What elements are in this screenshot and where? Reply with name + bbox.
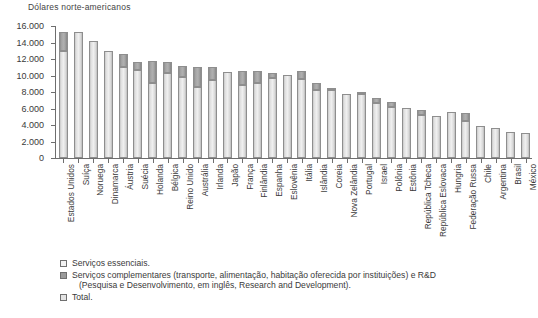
x-axis-label-32: México (529, 164, 538, 190)
x-axis-tick (302, 158, 303, 163)
bar-segment-complementares (208, 67, 217, 80)
bar-21 (357, 92, 366, 158)
x-axis-tick (138, 158, 139, 163)
x-axis-tick (287, 158, 288, 163)
bar-12 (223, 72, 232, 158)
x-axis-label-2: Suíça (82, 164, 91, 185)
bar-14 (253, 71, 262, 158)
x-axis-label-25: República Tcheca (424, 164, 433, 229)
y-axis-tick-label: 12.000 (16, 54, 44, 64)
bar-segment-essenciais (148, 83, 157, 158)
bar-segment-essenciais (476, 126, 485, 158)
bar-segment-complementares (312, 83, 321, 90)
legend-label: Serviços essenciais. (72, 258, 150, 269)
legend-label-continuation: (Pesquisa e Desenvolvimento, em inglês, … (72, 280, 436, 291)
x-axis-label-22: Israel (380, 164, 389, 184)
x-axis-label-27: Hungria (454, 164, 463, 193)
y-axis-tick (51, 59, 55, 60)
x-axis-label-13: França (246, 164, 255, 190)
x-axis-tick (213, 158, 214, 163)
x-axis-label-16: Eslovênia (290, 164, 299, 200)
y-axis-tick (51, 125, 55, 126)
bar-segment-essenciais (193, 87, 202, 158)
bar-7 (148, 61, 157, 158)
bar-25 (417, 110, 426, 158)
bar-segment-complementares (268, 73, 277, 78)
x-axis-tick (198, 158, 199, 163)
x-axis-label-20: Nova Zelândia (350, 164, 359, 218)
bar-15 (268, 73, 277, 158)
bar-segment-complementares (461, 113, 470, 121)
x-axis-tick (436, 158, 437, 163)
x-axis-label-30: Argentina (499, 164, 508, 200)
bar-17 (297, 71, 306, 158)
x-axis-tick (421, 158, 422, 163)
bar-segment-essenciais (283, 75, 292, 158)
bar-29 (476, 126, 485, 158)
x-axis-line (55, 158, 532, 159)
x-axis-tick (63, 158, 64, 163)
x-axis-label-1: Estados Unidos (67, 164, 76, 222)
x-axis-labels: Estados UnidosSuíçaNoruegaDinamarcaÁustr… (55, 164, 532, 254)
bar-segment-essenciais (372, 103, 381, 158)
bar-segment-essenciais (506, 132, 515, 158)
y-axis-line (55, 26, 56, 158)
y-axis-tick-label: 8.000 (21, 87, 44, 97)
x-axis-label-7: Holanda (156, 164, 165, 195)
bar-segment-complementares (148, 61, 157, 83)
x-axis-label-4: Dinamarca (111, 164, 120, 204)
bar-segment-essenciais (119, 67, 128, 158)
x-axis-label-3: Noruega (96, 164, 105, 196)
bar-chart: Dólares norte-americanos 02.0004.0006.00… (0, 0, 538, 318)
x-axis-tick (93, 158, 94, 163)
bar-18 (312, 83, 321, 158)
bar-32 (521, 133, 530, 158)
bar-segment-essenciais (447, 112, 456, 158)
y-axis-tick (51, 142, 55, 143)
x-axis-tick (108, 158, 109, 163)
x-axis-tick (78, 158, 79, 163)
x-axis-tick (257, 158, 258, 163)
x-axis-tick (153, 158, 154, 163)
x-axis-tick (362, 158, 363, 163)
x-axis-label-8: Bélgica (171, 164, 180, 191)
x-axis-tick (376, 158, 377, 163)
x-axis-tick (526, 158, 527, 163)
legend-label: Serviços complementares (transporte, ali… (72, 270, 436, 291)
x-axis-tick (332, 158, 333, 163)
bar-segment-complementares (59, 32, 68, 51)
legend-label: Total. (72, 292, 93, 303)
x-axis-tick (511, 158, 512, 163)
bar-10 (193, 67, 202, 158)
y-axis-title: Dólares norte-americanos (28, 2, 131, 12)
legend-swatch-essenciais-icon (60, 260, 67, 267)
bar-segment-essenciais (178, 77, 187, 158)
bar-segment-complementares (417, 110, 426, 115)
bar-segment-essenciais (297, 79, 306, 158)
bar-30 (491, 128, 500, 158)
bar-26 (432, 116, 441, 158)
x-axis-tick (391, 158, 392, 163)
bar-segment-complementares (297, 71, 306, 79)
bar-16 (283, 75, 292, 158)
y-axis-tick-label: 14.000 (16, 38, 44, 48)
y-axis-tick (51, 76, 55, 77)
bar-27 (447, 112, 456, 158)
x-axis-label-24: Estônia (409, 164, 418, 192)
y-axis-tick-label: 4.000 (21, 120, 44, 130)
bar-segment-essenciais (163, 73, 172, 158)
bar-segment-essenciais (208, 80, 217, 158)
y-axis-tick (51, 26, 55, 27)
bar-24 (402, 108, 411, 158)
bar-segment-essenciais (268, 78, 277, 158)
bar-segment-essenciais (402, 108, 411, 158)
legend-swatch-complementares-icon (60, 272, 67, 279)
x-axis-tick (466, 158, 467, 163)
x-axis-label-9: Reino Unido (186, 164, 195, 210)
x-axis-label-15: Espanha (275, 164, 284, 197)
bar-segment-essenciais (491, 128, 500, 158)
chart-legend: Serviços essenciais.Serviços complementa… (60, 258, 530, 303)
x-axis-label-18: Islândia (320, 164, 329, 193)
bar-segment-complementares (193, 67, 202, 86)
x-axis-tick (272, 158, 273, 163)
